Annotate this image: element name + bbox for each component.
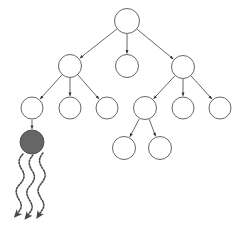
tree-node-open[interactable] — [209, 97, 231, 119]
tree-node-filled[interactable] — [20, 130, 44, 154]
squiggle-arrows-group — [16, 153, 46, 218]
tree-edge — [154, 76, 175, 99]
tree-node-open[interactable] — [115, 9, 140, 34]
tree-node-open[interactable] — [172, 97, 194, 119]
tree-node-open[interactable] — [172, 56, 195, 79]
tree-node-open[interactable] — [21, 97, 43, 119]
tree-edge — [137, 29, 173, 59]
squiggle-arrow — [26, 155, 34, 218]
tree-edge — [149, 119, 155, 136]
tree-edge — [130, 119, 140, 137]
tree-edge — [40, 75, 62, 99]
tree-node-open[interactable] — [134, 97, 157, 120]
tree-edges-group — [32, 29, 212, 137]
squiggle-arrow — [38, 153, 46, 217]
tree-edge — [80, 29, 117, 58]
tree-node-open[interactable] — [113, 137, 136, 160]
tree-nodes-group — [20, 9, 231, 160]
tree-node-open[interactable] — [59, 97, 81, 119]
squiggle-arrow — [16, 154, 24, 216]
tree-node-open[interactable] — [96, 97, 118, 119]
tree-node-open[interactable] — [59, 55, 82, 78]
tree-edge — [78, 75, 99, 99]
tree-diagram-svg — [0, 0, 245, 233]
tree-edge — [191, 76, 212, 99]
tree-node-open[interactable] — [149, 137, 172, 160]
tree-node-open[interactable] — [116, 55, 139, 78]
tree-diagram-canvas — [0, 0, 245, 233]
